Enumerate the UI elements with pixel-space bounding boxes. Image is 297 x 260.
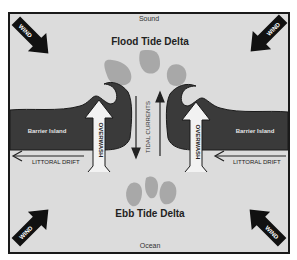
overwash-left-label: OVERWASH <box>98 123 104 158</box>
tidal-currents-label: TIDAL CURRENTS <box>145 101 151 153</box>
littoral-drift-left-label: LITTORAL DRIFT <box>32 159 80 165</box>
flood-tide-delta-label: Flood Tide Delta <box>111 36 189 47</box>
ebb-tide-delta-label: Ebb Tide Delta <box>115 208 185 219</box>
littoral-drift-right-label: LITTORAL DRIFT <box>233 159 281 165</box>
barrier-island-left-label: Barrier Island <box>28 128 67 134</box>
ocean-label: Ocean <box>140 242 161 249</box>
barrier-island-diagram: Sound Flood Tide Delta Barrier Island Ba… <box>0 0 297 260</box>
overwash-right-label: OVERWASH <box>195 125 201 160</box>
barrier-island-right-label: Barrier Island <box>236 128 275 134</box>
sound-label: Sound <box>139 15 159 22</box>
